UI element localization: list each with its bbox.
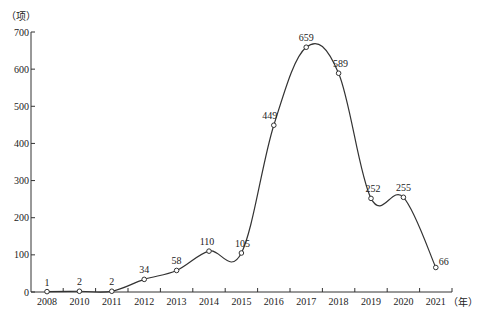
data-point-marker [77, 289, 82, 294]
data-markers [45, 45, 438, 294]
x-tick-label: 2018 [329, 296, 349, 307]
x-axis-unit-label: （年） [448, 296, 478, 308]
data-point-label: 1 [45, 277, 50, 288]
data-point-label: 2 [109, 276, 114, 287]
y-tick-label: 500 [14, 101, 29, 112]
data-point-label: 589 [333, 58, 348, 69]
data-point-marker [142, 277, 147, 282]
data-point-label: 34 [139, 264, 149, 275]
data-point-label: 659 [299, 32, 314, 43]
data-point-marker [272, 123, 277, 128]
data-point-label: 449 [262, 110, 277, 121]
y-tick-label: 200 [14, 212, 29, 223]
y-tick-label: 400 [14, 138, 29, 149]
data-point-marker [239, 251, 244, 256]
data-point-marker [45, 289, 50, 294]
data-point-marker [401, 195, 406, 200]
data-point-marker [110, 289, 115, 294]
x-tick-label: 2011 [102, 296, 122, 307]
x-tick-label: 2013 [167, 296, 187, 307]
data-point-label: 255 [396, 182, 411, 193]
data-point-marker [304, 45, 309, 50]
data-point-marker [207, 249, 212, 254]
y-tick-label: 0 [24, 287, 29, 298]
x-tick-label: 2008 [37, 296, 57, 307]
data-point-label: 58 [172, 255, 182, 266]
data-point-label: 105 [235, 238, 250, 249]
x-tick-label: 2019 [361, 296, 381, 307]
data-point-marker [336, 71, 341, 76]
data-point-marker [174, 268, 179, 273]
data-point-label: 110 [200, 236, 215, 247]
x-tick-label: 2015 [231, 296, 251, 307]
x-axis: 2008201020112012201320142015201620172018… [31, 288, 452, 307]
y-tick-label: 600 [14, 64, 29, 75]
y-axis: 0100200300400500600700 [14, 27, 35, 298]
data-point-label: 2 [77, 276, 82, 287]
line-chart: （项） 0100200300400500600700 2008201020112… [0, 0, 484, 322]
x-tick-label: 2017 [296, 296, 316, 307]
x-tick-label: 2021 [426, 296, 446, 307]
x-tick-label: 2016 [264, 296, 284, 307]
y-axis-unit-label: （项） [6, 11, 36, 22]
y-tick-label: 100 [14, 249, 29, 260]
x-tick-label: 2020 [393, 296, 413, 307]
data-labels: 122345811010544965958925225566 [45, 32, 449, 287]
x-tick-label: 2014 [199, 296, 219, 307]
y-tick-label: 300 [14, 175, 29, 186]
data-point-marker [434, 265, 439, 270]
data-point-label: 252 [366, 183, 381, 194]
data-point-marker [369, 196, 374, 201]
x-tick-label: 2010 [69, 296, 89, 307]
x-tick-label: 2012 [134, 296, 154, 307]
y-tick-label: 700 [14, 27, 29, 38]
data-point-label: 66 [439, 256, 449, 267]
